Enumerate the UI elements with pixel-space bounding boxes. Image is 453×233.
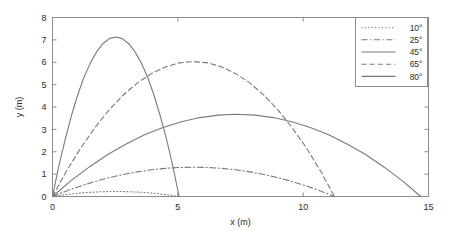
y-tick-label: 2 — [41, 147, 46, 157]
trajectory-curve-65deg — [53, 61, 335, 196]
y-axis-title: y (m) — [14, 97, 24, 118]
legend-label-10deg: 10° — [410, 23, 423, 33]
y-axis-tick-labels: 012345678 — [41, 13, 46, 202]
x-tick-label: 5 — [175, 202, 180, 212]
x-axis-tick-labels: 051015 — [50, 202, 434, 212]
y-tick-label: 1 — [41, 169, 46, 179]
legend-label-65deg: 65° — [410, 59, 423, 69]
y-tick-label: 0 — [41, 192, 46, 202]
trajectory-curve-25deg — [53, 167, 335, 196]
x-tick-label: 10 — [298, 202, 308, 212]
x-tick-label: 0 — [50, 202, 55, 212]
projectile-trajectory-chart: 012345678 051015 10°25°45°65°80° x (m) y… — [0, 0, 453, 233]
chart-legend: 10°25°45°65°80° — [356, 18, 428, 87]
y-tick-label: 7 — [41, 35, 46, 45]
x-tick-label: 15 — [423, 202, 433, 212]
y-tick-label: 4 — [41, 102, 46, 112]
y-tick-label: 8 — [41, 13, 46, 23]
legend-label-45deg: 45° — [410, 47, 423, 57]
legend-label-25deg: 25° — [410, 35, 423, 45]
legend-label-80deg: 80° — [410, 72, 423, 82]
y-tick-label: 3 — [41, 125, 46, 135]
y-tick-label: 5 — [41, 80, 46, 90]
trajectory-curve-45deg — [53, 114, 421, 196]
y-tick-label: 6 — [41, 57, 46, 67]
trajectory-curve-10deg — [53, 192, 180, 197]
trajectory-curve-80deg — [53, 37, 180, 196]
x-axis-title: x (m) — [230, 217, 251, 227]
chart-svg: 012345678 051015 10°25°45°65°80° x (m) y… — [0, 0, 453, 233]
